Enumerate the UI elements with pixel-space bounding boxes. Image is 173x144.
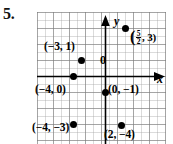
fraction-numerator: 5 — [136, 30, 142, 38]
point-label-2-neg4: (2, −4) — [104, 129, 135, 141]
fraction-label-suffix: , 3) — [142, 31, 156, 43]
point-label-neg4-neg3: (−4, −3) — [32, 122, 69, 134]
x-axis-label: x — [157, 73, 163, 85]
paren-open: ( — [130, 28, 135, 45]
plot-point-neg3-1 — [78, 57, 85, 64]
point-label-neg3-1: (−3, 1) — [44, 41, 75, 53]
y-axis-arrowhead — [101, 15, 110, 26]
coordinate-plane-figure: 5. y x 0 (−3, 1) (52, 3) (−4, 0) (0, −1 — [0, 0, 173, 144]
origin-label: 0 — [100, 54, 106, 66]
plot-point-neg4-neg3 — [70, 121, 77, 128]
y-axis-label: y — [114, 15, 119, 27]
point-label-0-neg1: (0, −1) — [108, 84, 139, 96]
fraction-five-halves: 52 — [136, 30, 142, 47]
plot-point-five-halves-3 — [122, 25, 129, 32]
point-label-five-halves-3: (52, 3) — [130, 30, 156, 47]
exercise-number: 5. — [3, 6, 15, 22]
fraction-denominator: 2 — [136, 37, 142, 46]
plot-point-neg4-0 — [70, 73, 77, 80]
point-label-neg4-0: (−4, 0) — [35, 84, 66, 96]
